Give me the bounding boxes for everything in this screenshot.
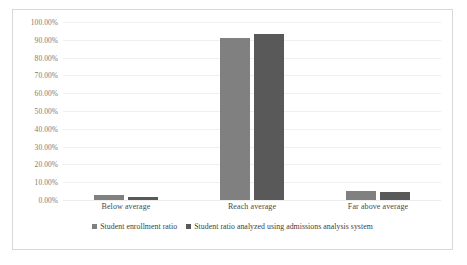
y-axis-tick-label: 30.00% — [35, 142, 58, 151]
bar — [380, 192, 410, 200]
bar-group — [315, 22, 441, 200]
legend-item[interactable]: Student enrollment ratio — [92, 222, 177, 231]
bar — [128, 197, 158, 200]
chart-frame: 0.00%10.00%20.00%30.00%40.00%50.00%60.00… — [12, 9, 453, 250]
bar — [346, 191, 376, 200]
x-axis-category-labels: Below averageReach averageFar above aver… — [63, 202, 441, 211]
y-axis-tick-label: 50.00% — [35, 107, 58, 116]
bar — [220, 38, 250, 200]
y-axis-tick-label: 40.00% — [35, 124, 58, 133]
legend-item[interactable]: Student ratio analyzed using admissions … — [186, 222, 373, 231]
bar — [94, 195, 124, 200]
bar-group — [63, 22, 189, 200]
x-axis-category-label: Far above average — [315, 202, 441, 211]
bar — [254, 34, 284, 200]
legend-swatch-icon — [186, 224, 191, 229]
plot-area: 0.00%10.00%20.00%30.00%40.00%50.00%60.00… — [63, 22, 441, 200]
y-axis-tick-label: 70.00% — [35, 71, 58, 80]
y-axis-tick-label: 10.00% — [35, 178, 58, 187]
y-axis-tick-label: 0.00% — [38, 196, 58, 205]
gridline — [63, 200, 441, 201]
bar-group — [189, 22, 315, 200]
y-axis-tick-label: 90.00% — [35, 35, 58, 44]
legend-label: Student enrollment ratio — [100, 222, 177, 231]
legend-swatch-icon — [92, 224, 97, 229]
y-axis-tick-label: 60.00% — [35, 89, 58, 98]
x-axis-category-label: Below average — [63, 202, 189, 211]
bar-series-layer — [63, 22, 441, 200]
legend-label: Student ratio analyzed using admissions … — [194, 222, 373, 231]
chart-legend: Student enrollment ratioStudent ratio an… — [13, 222, 452, 231]
y-axis-tick-label: 20.00% — [35, 160, 58, 169]
y-axis-tick-label: 80.00% — [35, 53, 58, 62]
x-axis-category-label: Reach average — [189, 202, 315, 211]
y-axis-tick-label: 100.00% — [31, 18, 58, 27]
